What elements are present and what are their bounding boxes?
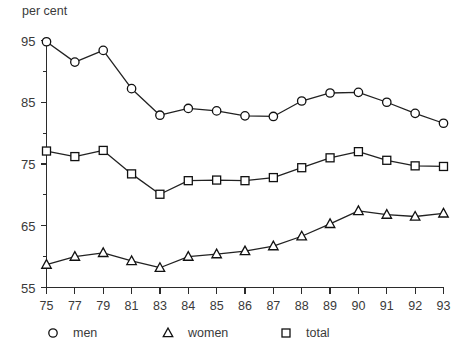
- data-point-total: [354, 148, 362, 156]
- y-axis-label: per cent: [22, 4, 68, 18]
- data-point-total: [298, 164, 306, 172]
- data-point-total: [71, 153, 79, 161]
- data-point-men: [383, 98, 391, 106]
- series-line-women: [47, 211, 444, 268]
- data-point-women: [297, 231, 307, 240]
- y-tick-label: 75: [21, 157, 35, 172]
- data-point-total: [326, 154, 334, 162]
- x-tick-label: 79: [96, 299, 110, 313]
- data-point-total: [99, 146, 107, 154]
- x-tick-label: 88: [295, 299, 309, 313]
- x-tick-label: 92: [408, 299, 422, 313]
- legend-circle-marker: [49, 329, 57, 337]
- x-tick-label: 93: [437, 299, 451, 313]
- legend-label-women: women: [187, 326, 228, 340]
- data-point-total: [440, 162, 448, 170]
- data-point-women: [354, 206, 364, 215]
- data-point-total: [411, 162, 419, 170]
- line-chart: per cent95857565557577798183848586878889…: [0, 0, 459, 359]
- data-point-men: [439, 119, 447, 127]
- x-tick-label: 91: [380, 299, 394, 313]
- y-tick-label: 95: [21, 34, 35, 49]
- data-point-men: [71, 58, 79, 66]
- data-point-women: [98, 248, 108, 257]
- data-point-total: [128, 170, 136, 178]
- data-point-men: [42, 38, 50, 46]
- data-point-men: [99, 46, 107, 54]
- data-point-total: [383, 156, 391, 164]
- legend-label-men: men: [73, 326, 97, 340]
- legend-square-marker: [282, 329, 290, 337]
- data-point-total: [241, 177, 249, 185]
- x-tick-label: 84: [181, 299, 195, 313]
- x-tick-label: 90: [351, 299, 365, 313]
- data-point-men: [212, 107, 220, 115]
- data-point-men: [326, 89, 334, 97]
- x-tick-label: 86: [238, 299, 252, 313]
- x-tick-label: 89: [323, 299, 337, 313]
- data-point-total: [184, 177, 192, 185]
- y-tick-label: 85: [21, 95, 35, 110]
- y-tick-label: 55: [21, 281, 35, 296]
- data-point-men: [411, 109, 419, 117]
- x-tick-label: 85: [210, 299, 224, 313]
- data-point-men: [269, 112, 277, 120]
- data-point-total: [43, 147, 51, 155]
- chart-page: per cent95857565557577798183848586878889…: [0, 0, 459, 359]
- x-tick-label: 75: [40, 299, 54, 313]
- x-tick-label: 87: [266, 299, 280, 313]
- data-point-total: [213, 176, 221, 184]
- data-point-men: [298, 97, 306, 105]
- data-point-men: [156, 111, 164, 119]
- legend-triangle-marker: [163, 328, 173, 337]
- data-point-total: [156, 190, 164, 198]
- x-tick-label: 77: [68, 299, 82, 313]
- data-point-men: [127, 84, 135, 92]
- data-point-women: [439, 208, 449, 217]
- data-point-women: [325, 219, 335, 228]
- legend-label-total: total: [306, 326, 330, 340]
- x-tick-label: 81: [125, 299, 139, 313]
- y-tick-label: 65: [21, 219, 35, 234]
- data-point-men: [241, 112, 249, 120]
- x-tick-label: 83: [153, 299, 167, 313]
- data-point-men: [354, 88, 362, 96]
- data-point-men: [184, 104, 192, 112]
- data-point-total: [269, 174, 277, 182]
